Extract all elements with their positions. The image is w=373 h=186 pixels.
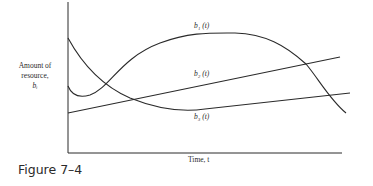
figure-caption: Figure 7–4 (18, 162, 82, 177)
y-axis-label: Amount of resource, bᵢ (8, 61, 62, 91)
y-axis-label-line3: bᵢ (8, 81, 62, 91)
x-axis-label: Time, t (188, 155, 209, 164)
y-axis-label-line2: resource, (8, 71, 62, 81)
label-b3: b₃ (t) (194, 112, 209, 121)
label-b2: b₂ (t) (194, 69, 209, 78)
y-axis-label-line1: Amount of (8, 61, 62, 71)
chart-plot (0, 0, 373, 186)
label-b1: b₁ (t) (194, 21, 209, 30)
curve-b2 (68, 57, 340, 113)
